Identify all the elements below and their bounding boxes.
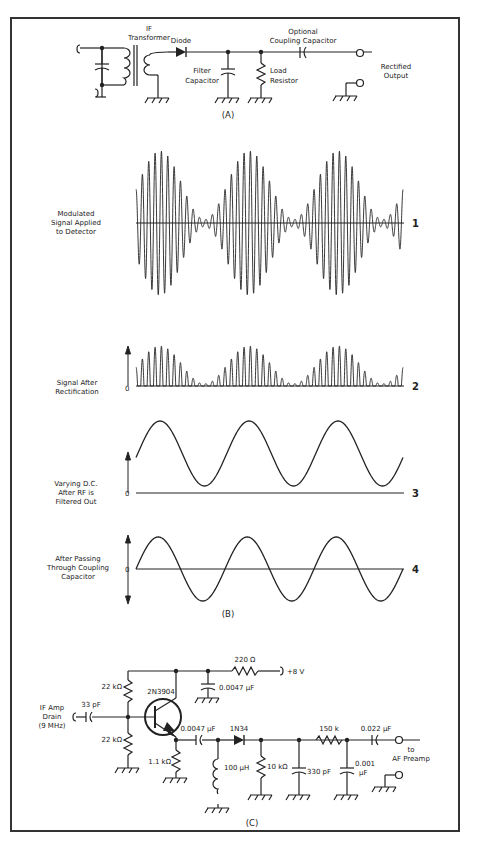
caption-4-line-2: Through Coupling (46, 564, 109, 572)
wave-number-3: 3 (412, 488, 419, 499)
label-drain: Drain (43, 713, 62, 721)
emitter-arrow-icon (163, 722, 175, 731)
label-transformer: Transformer (127, 34, 170, 42)
emitter-ground-icon (163, 778, 187, 783)
label-capacitor: Capacitor (185, 77, 219, 85)
load-ground-icon (248, 795, 272, 800)
caption-1-line-2: Signal Applied (51, 219, 101, 227)
caption-4-line-3: Capacitor (61, 573, 95, 581)
diode-a-icon (176, 47, 186, 57)
label-0001: 0.001 (355, 760, 375, 768)
output-ground-icon (372, 787, 396, 792)
bias-ground-icon (115, 768, 139, 773)
caption-4-line-1: After Passing (55, 555, 100, 563)
label-10k: 10 kΩ (267, 763, 288, 771)
label-1k1: 1.1 kΩ (148, 758, 171, 766)
diode-c-icon (234, 735, 244, 745)
transformer-secondary (144, 55, 150, 75)
label-diode: Diode (171, 37, 191, 45)
input-terminal-c (73, 713, 76, 721)
label-uf: µF (359, 769, 367, 777)
label-2n3904: 2N3904 (147, 688, 175, 696)
label-output: Output (384, 72, 409, 80)
transformer-ground-icon (145, 98, 169, 103)
output-terminal-bottom (357, 80, 364, 87)
label-bypass-cap: 0.0047 µF (219, 684, 254, 692)
transformer-primary (124, 48, 130, 85)
wave-number-1: 1 (412, 218, 419, 229)
label-if-amp: IF Amp (40, 704, 65, 712)
label-220: 220 Ω (235, 656, 257, 664)
label-22k-top: 22 kΩ (101, 683, 122, 691)
label-load: Load (270, 67, 287, 75)
input-terminal-top (77, 45, 80, 53)
label-9mhz: (9 MHz) (38, 722, 65, 730)
zero-label-4: 0 (125, 566, 129, 574)
label-coupling-cap: 0.0047 µF (180, 725, 215, 733)
label-part-a: (A) (222, 110, 234, 120)
output-terminal-c-bottom (396, 772, 403, 779)
caption-2-line-2: Rectification (55, 388, 98, 396)
label-100uh: 100 µH (224, 764, 249, 772)
label-part-c: (C) (246, 818, 259, 828)
caption-1-line-3: to Detector (56, 228, 96, 236)
label-8v: +8 V (287, 668, 305, 676)
label-resistor: Resistor (270, 77, 298, 85)
zero-label-3: 0 (125, 490, 129, 498)
inductor-ground-icon (205, 808, 229, 813)
label-0022: 0.022 µF (361, 725, 392, 733)
label-af-preamp: AF Preamp (392, 755, 430, 763)
filter-ground-icon (286, 795, 310, 800)
output-ground-icon (333, 96, 357, 101)
input-terminal-bottom (95, 89, 98, 97)
caption-2-line-1: Signal After (57, 379, 98, 387)
label-filter: Filter (193, 67, 210, 75)
waveform-3-varying-dc (136, 421, 403, 486)
circuit-a (77, 45, 372, 98)
waveform-2-rectified-signal (136, 346, 403, 386)
label-if: IF (146, 25, 152, 33)
label-330pf: 330 pF (307, 768, 331, 776)
label-coupling-capacitor: Coupling Capacitor (270, 37, 337, 45)
wave-number-2: 2 (412, 381, 419, 392)
label-part-b: (B) (222, 609, 234, 619)
caption-3-line-3: Filtered Out (56, 498, 97, 506)
label-to: to (407, 746, 414, 754)
wave-number-4: 4 (412, 564, 419, 575)
caption-3-line-2: After RF is (58, 489, 94, 497)
waveforms (136, 151, 404, 601)
label-optional: Optional (288, 28, 318, 36)
label-22k-bottom: 22 kΩ (101, 736, 122, 744)
output-terminal-top (357, 50, 364, 57)
label-1n34: 1N34 (230, 725, 249, 733)
shunt-ground-icon (334, 795, 358, 800)
label-150k: 150 k (319, 725, 340, 733)
load-resistor-ground-icon (248, 98, 272, 103)
figure-svg: IF Transformer Diode Filter Capacitor Lo… (0, 0, 478, 847)
zero-label-2: 0 (125, 385, 129, 393)
output-terminal-c-top (396, 737, 403, 744)
label-rectified: Rectified (381, 63, 412, 71)
label-33pf: 33 pF (81, 701, 101, 709)
caption-3-line-1: Varying D.C. (54, 480, 97, 488)
filter-cap-ground-icon (215, 98, 239, 103)
bypass-ground-icon (195, 698, 219, 703)
caption-1-line-1: Modulated (58, 210, 95, 218)
